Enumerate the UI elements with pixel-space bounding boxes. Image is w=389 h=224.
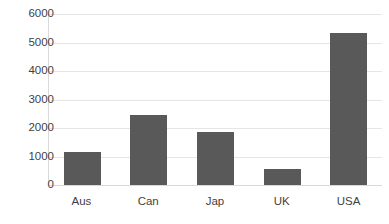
bar-uk[interactable] xyxy=(264,169,301,185)
bar-chart: 0100020003000400050006000 AusCanJapUKUSA xyxy=(0,0,389,224)
y-tick-label-5000: 5000 xyxy=(10,37,54,49)
x-tick-label-uk: UK xyxy=(248,190,315,212)
bar-slot-uk xyxy=(249,14,316,185)
x-tick-label-jap: Jap xyxy=(182,190,249,212)
gridline-0 xyxy=(49,185,382,186)
y-tick-label-2000: 2000 xyxy=(10,122,54,134)
y-tick-label-1000: 1000 xyxy=(10,151,54,163)
bar-slot-can xyxy=(116,14,183,185)
bar-usa[interactable] xyxy=(330,33,367,185)
y-tick-label-6000: 6000 xyxy=(10,8,54,20)
x-axis-tick-labels: AusCanJapUKUSA xyxy=(48,190,382,212)
y-tick-label-4000: 4000 xyxy=(10,65,54,77)
x-tick-label-aus: Aus xyxy=(48,190,115,212)
bar-aus[interactable] xyxy=(64,152,101,185)
bar-slot-aus xyxy=(49,14,116,185)
bar-slot-jap xyxy=(182,14,249,185)
x-tick-label-usa: USA xyxy=(315,190,382,212)
bar-jap[interactable] xyxy=(197,132,234,185)
bars-group xyxy=(49,14,382,185)
y-tick-label-3000: 3000 xyxy=(10,94,54,106)
plot-area xyxy=(48,14,382,185)
bar-can[interactable] xyxy=(130,115,167,185)
bar-slot-usa xyxy=(315,14,382,185)
x-tick-label-can: Can xyxy=(115,190,182,212)
